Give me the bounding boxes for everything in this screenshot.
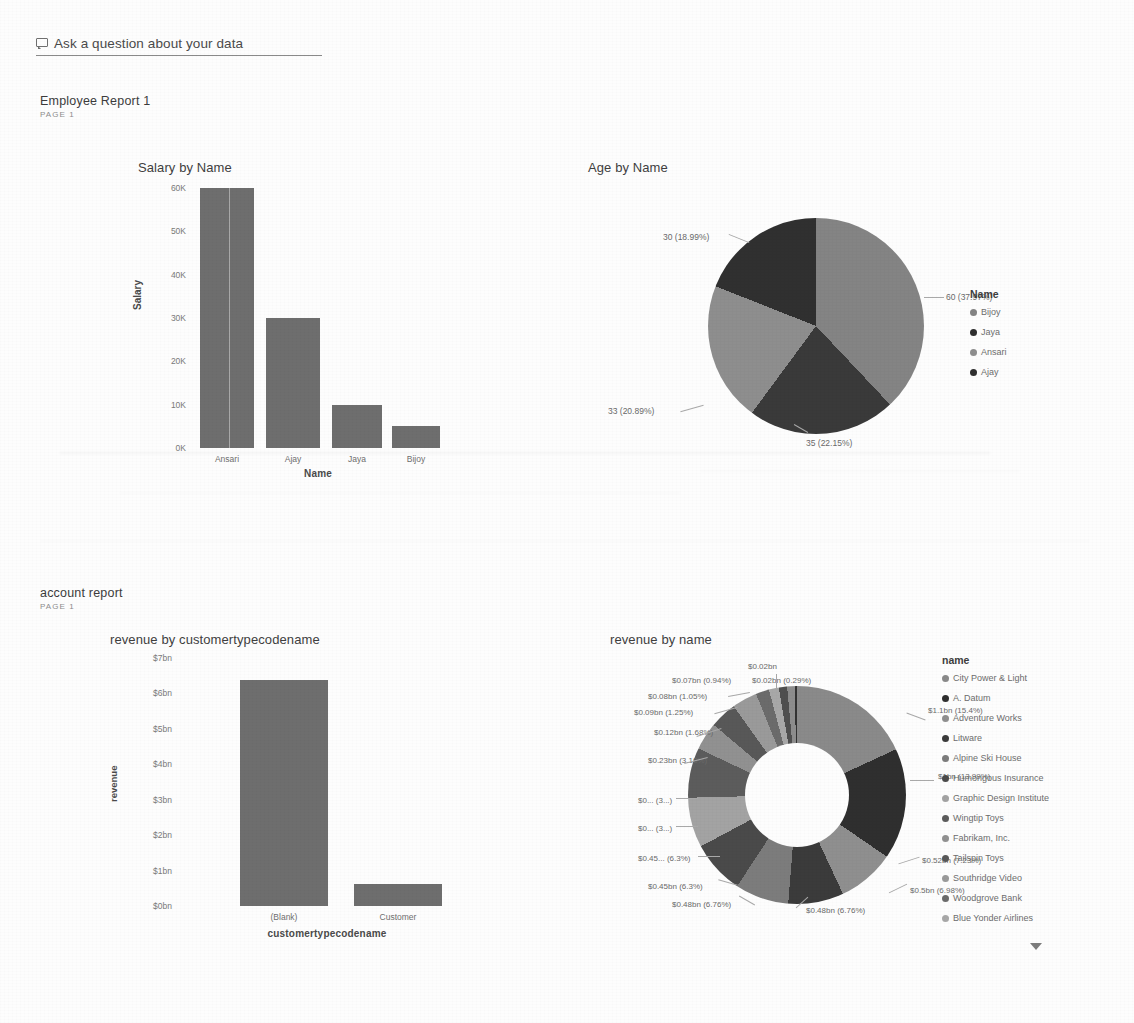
y-tick: $7bn [153, 653, 172, 663]
chart-title: Age by Name [588, 160, 668, 175]
pie-graphic[interactable] [708, 218, 924, 434]
legend-item[interactable]: Woodgrove Bank [942, 893, 1049, 903]
donut-slice-label: $0.45... (6.3%) [638, 854, 690, 864]
y-tick: $2bn [153, 830, 172, 840]
legend-color-dot [942, 855, 949, 862]
y-tick: 20K [171, 356, 186, 366]
legend-item[interactable]: Adventure Works [942, 713, 1049, 723]
legend-revenue-by-name: name City Power & Light A. Datum Adventu… [942, 654, 1049, 933]
y-tick: 0K [176, 443, 186, 453]
chart-revenue-by-name[interactable]: revenue by name $1.1bn (15.4%) $1bn (13.… [610, 632, 1130, 972]
leader-line [680, 405, 703, 413]
chart-title: revenue by name [610, 632, 712, 647]
leader-line [906, 713, 925, 721]
legend-color-dot [970, 329, 977, 336]
chart-age-by-name[interactable]: Age by Name 30 (18.99%) 60 (37.97%) 33 (… [588, 160, 1098, 460]
x-tick-label: Ansari [215, 454, 239, 464]
x-tick-label: Bijoy [407, 454, 425, 464]
donut-slice-label: $0.45bn (6.3%) [648, 882, 703, 892]
leader-line [676, 798, 698, 799]
legend-item[interactable]: Wingtip Toys [942, 813, 1049, 823]
pie-slice-label-jaya: 35 (22.15%) [806, 438, 852, 448]
legend-item[interactable]: Litware [942, 733, 1049, 743]
legend-item[interactable]: Southridge Video [942, 873, 1049, 883]
legend-label: Tailspin Toys [953, 853, 1004, 863]
qna-placeholder-text: Ask a question about your data [54, 36, 243, 51]
legend-color-dot [942, 715, 949, 722]
legend-item[interactable]: Alpine Ski House [942, 753, 1049, 763]
legend-label: Ansari [981, 347, 1007, 357]
x-axis-title: Name [304, 468, 332, 479]
bar-blank[interactable] [240, 680, 328, 906]
leader-line [676, 826, 698, 827]
legend-item[interactable]: Humongous Insurance [942, 773, 1049, 783]
leader-line [728, 692, 750, 697]
donut-slice-label: $0... (3...) [638, 824, 672, 834]
legend-label: Woodgrove Bank [953, 893, 1022, 903]
legend-item[interactable]: Bijoy [970, 307, 1007, 317]
donut-graphic[interactable] [688, 686, 906, 904]
plot-area [194, 188, 442, 448]
legend-item[interactable]: Tailspin Toys [942, 853, 1049, 863]
chart-salary-by-name[interactable]: Salary by Name Salary 0K 10K 20K 30K 40K… [138, 160, 468, 480]
legend-label: Adventure Works [953, 713, 1022, 723]
donut-slice-label-value: $0.02bn [748, 662, 777, 672]
legend-label: Blue Yonder Airlines [953, 913, 1033, 923]
legend-title: Name [970, 288, 1007, 300]
bar-bijoy[interactable] [392, 426, 440, 448]
y-axis: $0bn $1bn $2bn $3bn $4bn $5bn $6bn $7bn [110, 658, 176, 906]
legend-item[interactable]: Ajay [970, 367, 1007, 377]
report-title: account report [40, 586, 123, 600]
report-title: Employee Report 1 [40, 94, 150, 108]
y-tick: 60K [171, 183, 186, 193]
y-tick: 30K [171, 313, 186, 323]
x-tick-label: (Blank) [271, 912, 298, 922]
leader-line [889, 884, 907, 894]
legend-color-dot [970, 309, 977, 316]
bar-ajay[interactable] [266, 318, 320, 448]
legend-label: Fabrikam, Inc. [953, 833, 1010, 843]
y-axis: 0K 10K 20K 30K 40K 50K 60K [138, 188, 190, 448]
chevron-down-icon[interactable] [1030, 943, 1042, 950]
leader-line [924, 297, 944, 298]
legend-label: Bijoy [981, 307, 1001, 317]
donut-slice-label: $0.48bn (6.76%) [806, 906, 865, 916]
pie-slice-label-ajay: 30 (18.99%) [663, 232, 709, 242]
donut-slice-label: $0.23bn (3.18%) [648, 756, 707, 766]
y-tick: 50K [171, 226, 186, 236]
y-tick: 40K [171, 270, 186, 280]
legend-item[interactable]: A. Datum [942, 693, 1049, 703]
legend-label: Wingtip Toys [953, 813, 1004, 823]
legend-item[interactable]: Jaya [970, 327, 1007, 337]
donut-slice-label-percent: $0.02bn (0.29%) [752, 676, 811, 686]
legend-color-dot [942, 875, 949, 882]
question-bubble-icon [36, 38, 49, 49]
legend-color-dot [942, 735, 949, 742]
legend-age-by-name: Name Bijoy Jaya Ansari Ajay [970, 288, 1007, 387]
legend-label: Alpine Ski House [953, 753, 1022, 763]
bar-jaya[interactable] [332, 405, 382, 448]
plot-area [182, 658, 472, 906]
legend-item[interactable]: Fabrikam, Inc. [942, 833, 1049, 843]
chart-revenue-by-customertypecodename[interactable]: revenue by customertypecodename revenue … [110, 632, 490, 962]
legend-color-dot [942, 895, 949, 902]
legend-label: A. Datum [953, 693, 991, 703]
y-tick: $5bn [153, 724, 172, 734]
legend-item[interactable]: Blue Yonder Airlines [942, 913, 1049, 923]
leader-line [739, 896, 755, 906]
legend-item[interactable]: Ansari [970, 347, 1007, 357]
y-tick: $6bn [153, 688, 172, 698]
legend-label: Graphic Design Institute [953, 793, 1049, 803]
legend-color-dot [942, 795, 949, 802]
legend-item[interactable]: Graphic Design Institute [942, 793, 1049, 803]
qna-search-bar[interactable]: Ask a question about your data [36, 36, 322, 56]
bar-ansari[interactable] [200, 188, 254, 448]
legend-item[interactable]: City Power & Light [942, 673, 1049, 683]
legend-label: Litware [953, 733, 982, 743]
donut-slice-label: $0.08bn (1.05%) [648, 692, 707, 702]
leader-line [910, 780, 934, 781]
x-tick-label: Jaya [348, 454, 366, 464]
legend-color-dot [942, 775, 949, 782]
y-tick: 10K [171, 400, 186, 410]
bar-customer[interactable] [354, 884, 442, 906]
